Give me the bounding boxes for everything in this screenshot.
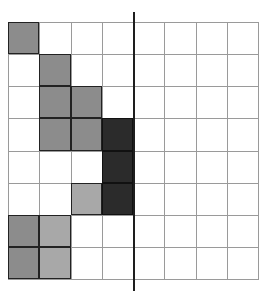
grid-cell-r1-c3 [102,54,133,86]
grid-cell-r3-c0 [8,118,39,150]
grid-cell-r0-c0 [8,22,39,54]
grid-cell-r1-c1 [39,54,70,86]
grid-cell-r4-c4 [133,151,164,183]
grid-cell-r7-c5 [164,247,195,279]
grid-cell-r7-c7 [227,247,258,279]
grid-cell-r6-c2 [71,215,102,247]
grid-cell-r7-c0 [8,247,39,279]
grid-cell-r3-c1 [39,118,70,150]
grid-cell-r2-c6 [196,86,227,118]
grid-cell-r6-c3 [102,215,133,247]
grid-cell-r4-c3 [102,151,133,183]
grid-cell-r0-c7 [227,22,258,54]
grid-cell-r7-c2 [71,247,102,279]
grid-cell-r6-c7 [227,215,258,247]
grid-cell-r3-c2 [71,118,102,150]
grid-cell-r1-c7 [227,54,258,86]
grid-cell-r3-c4 [133,118,164,150]
grid-cell-r2-c7 [227,86,258,118]
grid-cell-r5-c6 [196,183,227,215]
grid-cell-r1-c5 [164,54,195,86]
grid-cell-r0-c6 [196,22,227,54]
grid-cell-r2-c1 [39,86,70,118]
vertical-divider-line [133,12,135,291]
grid-cell-r2-c5 [164,86,195,118]
grid-cell-r4-c7 [227,151,258,183]
grid-cell-r3-c5 [164,118,195,150]
grid-cell-r0-c5 [164,22,195,54]
grid-cell-r1-c0 [8,54,39,86]
grid-cell-r0-c1 [39,22,70,54]
grid-cell-r4-c1 [39,151,70,183]
grid-cell-r6-c6 [196,215,227,247]
grid-cell-r7-c6 [196,247,227,279]
grid-cell-r5-c5 [164,183,195,215]
grid-cell-r4-c6 [196,151,227,183]
grid-cell-r5-c2 [71,183,102,215]
grid-cell-r1-c6 [196,54,227,86]
grid-cell-r7-c1 [39,247,70,279]
grid-cell-r6-c0 [8,215,39,247]
grid-cell-r1-c4 [133,54,164,86]
grid-cell-r4-c2 [71,151,102,183]
grid-cell-r3-c6 [196,118,227,150]
grid-cell-r2-c3 [102,86,133,118]
grid-cell-r7-c4 [133,247,164,279]
grid-cell-r3-c7 [227,118,258,150]
grid-cell-r1-c2 [71,54,102,86]
grid-cell-r5-c7 [227,183,258,215]
grid-cell-r6-c1 [39,215,70,247]
grid-cell-r3-c3 [102,118,133,150]
grid-cell-r0-c4 [133,22,164,54]
grid-cell-r7-c3 [102,247,133,279]
grid-cell-r6-c5 [164,215,195,247]
grid-cell-r2-c2 [71,86,102,118]
grid-cell-r5-c1 [39,183,70,215]
grid-cell-r2-c0 [8,86,39,118]
grid-cell-r4-c0 [8,151,39,183]
grid-cell-r6-c4 [133,215,164,247]
grid-cell-r5-c4 [133,183,164,215]
grid-cell-r5-c3 [102,183,133,215]
grid-cell-r2-c4 [133,86,164,118]
grid-cell-r5-c0 [8,183,39,215]
grid-cell-r4-c5 [164,151,195,183]
grid-cell-r0-c2 [71,22,102,54]
grid-cell-r0-c3 [102,22,133,54]
